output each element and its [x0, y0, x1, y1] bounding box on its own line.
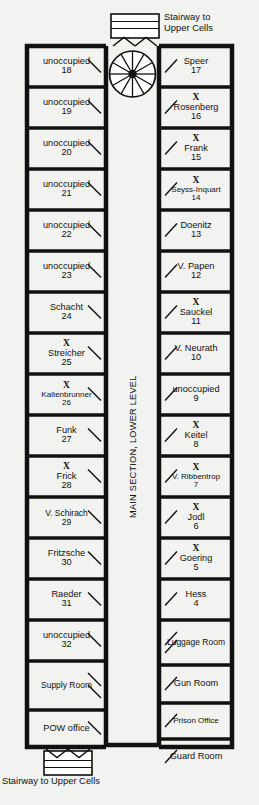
top-stairway-caption: Stairway to Upper Cells: [164, 11, 213, 33]
bottom-stairway-caption-text: Stairway to Upper Cells: [2, 775, 100, 786]
top-stairway-caption-line1: Stairway to: [164, 11, 210, 22]
bottom-stairway-caption: Stairway to Upper Cells: [2, 775, 100, 786]
spiral-staircase-icon: [110, 51, 156, 97]
left-cell-dividers: [27, 87, 106, 710]
corridor-label-text: MAIN SECTION, LOWER LEVEL: [128, 375, 138, 518]
top-stairway-caption-line2: Upper Cells: [164, 22, 213, 33]
corridor-label: MAIN SECTION, LOWER LEVEL: [128, 375, 138, 518]
top-stairway-graphic: [111, 14, 159, 46]
right-door-marks: [165, 60, 177, 764]
bottom-stairway-graphic: [44, 749, 92, 775]
right-cell-dividers: [159, 87, 232, 739]
left-door-marks: [88, 60, 101, 735]
